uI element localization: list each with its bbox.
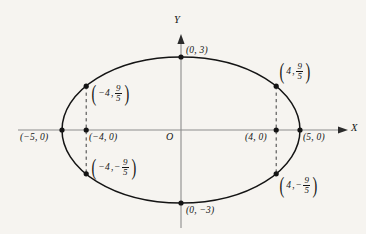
fraction-denominator: 5 <box>122 167 129 177</box>
label-top-vertex: (0, 3) <box>186 46 208 56</box>
x-axis-label: X <box>351 123 358 134</box>
label-left-vertex: (−5, 0) <box>20 133 48 143</box>
lower-right-x: 4 <box>286 181 291 191</box>
point-bottom-vertex <box>178 200 183 205</box>
point-top-vertex <box>178 54 183 59</box>
fraction-denominator: 5 <box>115 93 122 103</box>
comma: , <box>292 67 295 77</box>
plot-canvas <box>0 0 366 234</box>
lower-left-y-sign: − <box>115 163 121 173</box>
comma: , <box>111 163 114 173</box>
point-left-vertex <box>59 127 64 132</box>
lower-right-y-sign: − <box>296 181 302 191</box>
lower-left-x: −4 <box>98 163 110 173</box>
label-right-vertex: (5, 0) <box>303 133 325 143</box>
fraction-numerator: 9 <box>122 158 129 167</box>
point-lower-left <box>84 171 89 176</box>
label-bottom-vertex: (0, −3) <box>186 206 214 216</box>
comma: , <box>111 89 114 99</box>
fraction-nine-fifths: 9 5 <box>303 176 310 195</box>
fraction-nine-fifths: 9 5 <box>115 84 122 103</box>
y-axis-arrowhead <box>177 34 184 44</box>
upper-left-x: −4 <box>98 89 110 99</box>
upper-right-x: 4 <box>286 67 291 77</box>
fraction-nine-fifths: 9 5 <box>122 158 129 177</box>
label-upper-left-point: ( −4, 9 5 ) <box>90 84 131 103</box>
comma: , <box>292 181 295 191</box>
label-right-foot: (4, 0) <box>245 133 267 143</box>
origin-label: O <box>166 132 173 142</box>
point-upper-left <box>84 84 89 89</box>
label-left-foot: (−4, 0) <box>89 133 117 143</box>
label-lower-right-point: ( 4, − 9 5 ) <box>278 176 319 195</box>
label-lower-left-point: ( −4, − 9 5 ) <box>90 158 138 177</box>
x-axis-arrowhead <box>338 126 348 133</box>
fraction-numerator: 9 <box>296 62 303 71</box>
fraction-denominator: 5 <box>296 71 303 81</box>
fraction-denominator: 5 <box>303 185 310 195</box>
y-axis-label: Y <box>174 15 180 26</box>
fraction-numerator: 9 <box>115 84 122 93</box>
point-upper-right <box>274 84 279 89</box>
point-right-foot <box>274 127 279 132</box>
fraction-numerator: 9 <box>303 176 310 185</box>
fraction-nine-fifths: 9 5 <box>296 62 303 81</box>
point-right-vertex <box>297 127 302 132</box>
ellipse-graph-figure: Y X O (0, 3) (0, −3) (−5, 0) (5, 0) (−4,… <box>0 0 366 234</box>
label-upper-right-point: ( 4, 9 5 ) <box>278 62 312 81</box>
